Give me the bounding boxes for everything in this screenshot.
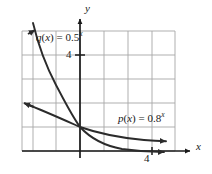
curve-q-equals: = xyxy=(54,31,66,43)
curve-label-q: q(x) = 0.5x xyxy=(36,32,83,43)
curve-p-base: 0.8 xyxy=(147,112,161,124)
x-axis-label: x xyxy=(196,141,201,152)
x-axis-tick-label-4: 4 xyxy=(144,153,150,164)
exponential-decay-figure: y x 4 4 q(x) = 0.5x p(x) = 0.8x xyxy=(0,0,212,174)
curve-q-base: 0.5 xyxy=(65,31,79,43)
curve-p-left-arrow xyxy=(24,103,34,107)
curve-p-exponent: x xyxy=(161,110,164,119)
plot-canvas xyxy=(0,0,212,174)
y-axis-label: y xyxy=(85,3,90,14)
y-axis-tick-label-4: 4 xyxy=(66,49,72,60)
curve-q-exponent: x xyxy=(79,29,82,38)
curve-label-p: p(x) = 0.8x xyxy=(118,113,165,124)
curve-p-equals: = xyxy=(136,112,148,124)
